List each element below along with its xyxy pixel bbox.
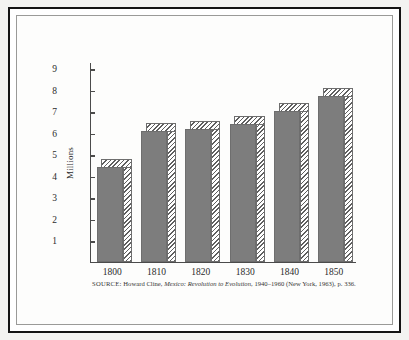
source-title: Mexico: Revolution to Evolution, — [164, 280, 252, 287]
bar-front-face — [185, 129, 211, 262]
x-axis-tick-label: 1810 — [134, 267, 178, 277]
bar — [141, 122, 176, 262]
x-axis-line — [90, 262, 356, 263]
y-axis-tick — [90, 69, 95, 70]
plot-area: Millions 123456789 180018101820183018401… — [60, 63, 356, 263]
y-axis-tick-label: 5 — [52, 150, 57, 160]
y-axis-tick-label: 3 — [52, 193, 57, 203]
bar — [230, 115, 265, 262]
y-axis-title: Millions — [65, 147, 75, 179]
x-axis-tick-label: 1850 — [312, 267, 356, 277]
y-axis-tick — [90, 155, 95, 156]
bar — [185, 120, 220, 262]
x-axis-tick-label: 1840 — [267, 267, 311, 277]
bar-front-face — [141, 131, 167, 262]
bar — [97, 158, 132, 262]
bar-side-face — [300, 111, 309, 262]
bar-front-face — [230, 124, 256, 262]
bar — [274, 102, 309, 262]
bar-side-face — [167, 131, 176, 262]
bar-chart-figure: Millions 123456789 180018101820183018401… — [16, 15, 393, 325]
y-axis-tick — [90, 112, 95, 113]
source-label: SOURCE: — [92, 280, 122, 287]
source-citation: SOURCE: Howard Cline, Mexico: Revolution… — [92, 279, 370, 290]
y-axis-tick-label: 9 — [52, 64, 57, 74]
y-axis-line — [90, 63, 91, 263]
source-author: Howard Cline, — [123, 280, 162, 287]
bar-front-face — [318, 96, 344, 262]
bar-front-face — [97, 167, 123, 262]
bar-side-face — [211, 129, 220, 262]
y-axis-tick-label: 6 — [52, 129, 57, 139]
x-axis-tick-label: 1830 — [223, 267, 267, 277]
y-axis-tick — [90, 177, 95, 178]
y-axis-tick — [90, 91, 95, 92]
bar-side-face — [344, 96, 353, 262]
y-axis-tick — [90, 241, 95, 242]
x-axis-tick-label: 1820 — [179, 267, 223, 277]
bar-side-face — [123, 167, 132, 262]
y-axis-tick-label: 2 — [52, 215, 57, 225]
y-axis-tick-label: 4 — [52, 172, 57, 182]
bar-front-face — [274, 111, 300, 262]
y-axis-tick — [90, 220, 95, 221]
x-axis-tick-label: 1800 — [90, 267, 134, 277]
y-axis-tick-label: 1 — [52, 236, 57, 246]
y-axis-tick-label: 8 — [52, 86, 57, 96]
figure-page: Millions 123456789 180018101820183018401… — [0, 0, 409, 340]
y-axis-tick-label: 7 — [52, 107, 57, 117]
bar — [318, 87, 353, 262]
bar-side-face — [256, 124, 265, 262]
y-axis-tick — [90, 198, 95, 199]
source-rest: 1940–1960 (New York, 1963), p. 336. — [254, 280, 355, 287]
y-axis-tick — [90, 134, 95, 135]
